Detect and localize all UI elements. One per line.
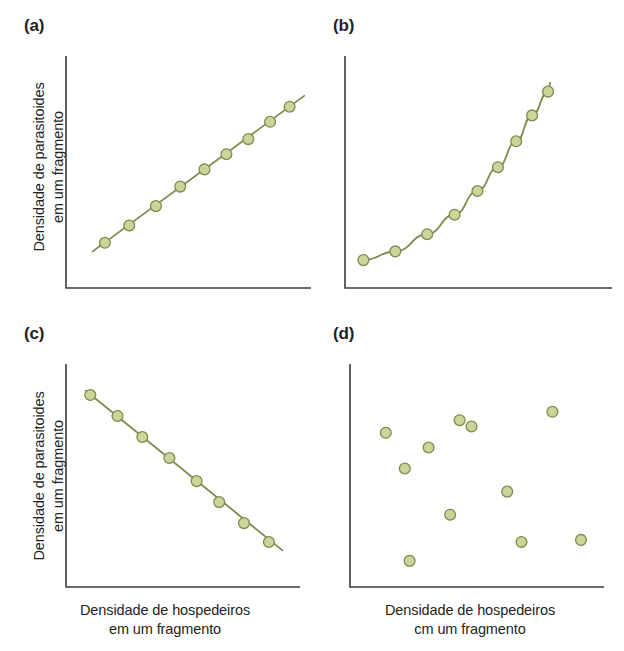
panel-d: (d) Densidade de hospedeiros cm um fragm… xyxy=(312,318,624,651)
data-point xyxy=(264,537,275,548)
data-point xyxy=(214,497,225,508)
data-point xyxy=(85,390,96,401)
data-point xyxy=(199,164,210,175)
figure-panel-grid: (a) Densidade de parasitoides em um frag… xyxy=(0,0,624,651)
data-point xyxy=(380,427,391,438)
data-point xyxy=(422,229,433,240)
data-point xyxy=(390,246,401,257)
data-point xyxy=(516,537,527,548)
panel-c-plot xyxy=(0,318,312,651)
data-point xyxy=(137,432,148,443)
panel-b-plot xyxy=(312,0,624,318)
data-point xyxy=(449,209,460,220)
data-point xyxy=(265,116,276,127)
data-point xyxy=(112,411,123,422)
panel-a-plot xyxy=(0,0,312,318)
data-point xyxy=(527,110,538,121)
panel-d-axes xyxy=(350,364,604,587)
data-point xyxy=(423,442,434,453)
data-point xyxy=(243,134,254,145)
panel-a: (a) Densidade de parasitoides em um frag… xyxy=(0,0,312,318)
data-point xyxy=(445,509,456,520)
panel-b-trend-line xyxy=(363,83,550,261)
data-point xyxy=(466,421,477,432)
data-point xyxy=(164,453,175,464)
data-point xyxy=(511,136,522,147)
data-point xyxy=(547,406,558,417)
data-point xyxy=(151,201,162,212)
data-point xyxy=(124,220,135,231)
data-point xyxy=(239,518,250,529)
data-point xyxy=(100,237,111,248)
data-point xyxy=(404,556,415,567)
panel-c-axes xyxy=(66,364,300,587)
panel-a-axes xyxy=(66,56,311,288)
data-point xyxy=(502,486,513,497)
data-point xyxy=(576,535,587,546)
data-point xyxy=(454,415,465,426)
data-point xyxy=(284,101,295,112)
panel-b-data-points xyxy=(358,86,554,265)
panel-c-data-points xyxy=(85,390,274,548)
data-point xyxy=(175,181,186,192)
data-point xyxy=(493,162,504,173)
panel-d-plot xyxy=(312,318,624,651)
data-point xyxy=(191,476,202,487)
data-point xyxy=(399,463,410,474)
data-point xyxy=(221,149,232,160)
panel-b: (b) xyxy=(312,0,624,318)
panel-c: (c) Densidade de parasitoides em um frag… xyxy=(0,318,312,651)
panel-d-data-points xyxy=(380,406,586,566)
data-point xyxy=(543,86,554,97)
data-point xyxy=(472,186,483,197)
data-point xyxy=(358,255,369,266)
